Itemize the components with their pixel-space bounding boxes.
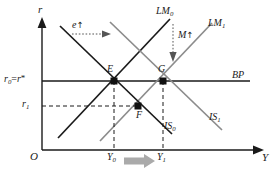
is0-subscript: 0 xyxy=(172,125,175,132)
money-supply-shift-arrow xyxy=(169,24,176,62)
money-supply-annotation: M↑ xyxy=(178,30,193,40)
x-axis-label: Y xyxy=(262,152,268,163)
y1-axis-value: Y1 xyxy=(157,152,166,163)
y1-subscript: 1 xyxy=(163,156,166,163)
m-up-arrow-glyph: ↑ xyxy=(186,30,193,40)
is0-curve-label: IS0 xyxy=(164,121,176,132)
lm1-subscript: 1 xyxy=(222,22,225,29)
lm0-curve-label: LM0 xyxy=(156,6,173,17)
y-axis-arrowhead xyxy=(38,17,47,28)
lm0-base: LM xyxy=(156,5,170,16)
exchange-rate-annotation: e↑ xyxy=(72,20,84,30)
rstar-asterisk: * xyxy=(21,73,26,83)
is-lm-bp-diagram: r Y O r0=r* r1 Y0 Y1 LM0 LM1 IS0 IS1 BP … xyxy=(0,0,278,174)
point-label-F: F xyxy=(136,110,142,120)
point-label-E: E xyxy=(107,64,113,74)
is1-curve-label: IS1 xyxy=(209,112,221,123)
origin-label: O xyxy=(30,151,38,162)
point-label-G: G xyxy=(158,64,165,74)
e-up-arrow-glyph: ↑ xyxy=(76,20,83,30)
point-marker-E xyxy=(111,78,118,85)
exchange-rate-shift-arrow xyxy=(72,30,111,37)
point-marker-G xyxy=(160,78,167,85)
y-axis-label: r xyxy=(38,4,42,15)
y0-subscript: 0 xyxy=(113,156,116,163)
output-expansion-arrow xyxy=(124,154,155,168)
is1-subscript: 1 xyxy=(217,116,220,123)
diagram-canvas xyxy=(0,0,278,174)
r0-axis-value: r0=r* xyxy=(4,74,25,86)
lm1-curve-label: LM1 xyxy=(208,18,225,29)
lm1-base: LM xyxy=(208,17,222,28)
r1-subscript: 1 xyxy=(26,103,29,110)
r1-axis-value: r1 xyxy=(22,99,29,110)
lm0-subscript: 0 xyxy=(170,10,173,17)
y0-axis-value: Y0 xyxy=(107,152,116,163)
bp-curve-label: BP xyxy=(232,70,244,80)
